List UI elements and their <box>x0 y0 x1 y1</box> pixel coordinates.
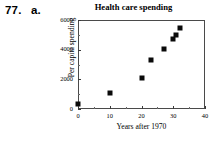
exercise-part-label: a. <box>31 4 41 16</box>
x-tick-mark <box>78 106 79 109</box>
plot-area <box>78 20 205 109</box>
data-point <box>174 32 179 37</box>
data-point <box>139 76 144 81</box>
x-tick-mark-minor <box>126 107 127 109</box>
y-tick-label: 0 <box>70 106 73 112</box>
x-tick-mark <box>205 106 206 109</box>
y-axis-title: Per capita spending <box>67 3 76 93</box>
x-tick-label: 30 <box>170 113 176 119</box>
x-tick-label: 40 <box>202 113 208 119</box>
x-tick-label: 20 <box>138 113 144 119</box>
x-tick-mark <box>110 106 111 109</box>
x-tick-mark <box>142 106 143 109</box>
data-point <box>177 26 182 31</box>
y-tick-mark <box>78 79 81 80</box>
y-tick-mark <box>78 50 81 51</box>
x-tick-label: 0 <box>76 113 79 119</box>
x-tick-mark-minor <box>189 107 190 109</box>
y-tick-mark-minor <box>78 65 80 66</box>
y-tick-mark-minor <box>78 94 80 95</box>
data-point <box>107 91 112 96</box>
x-axis-title: Years after 1970 <box>78 122 205 131</box>
y-tick-mark <box>78 109 81 110</box>
y-tick-mark <box>78 20 81 21</box>
x-tick-mark <box>173 106 174 109</box>
scatter-chart: Health care spending 0200040006000 01020… <box>48 0 219 142</box>
exercise-number: 77. <box>5 4 22 16</box>
data-point <box>149 58 154 63</box>
x-tick-mark-minor <box>157 107 158 109</box>
data-point <box>161 46 166 51</box>
x-tick-mark-minor <box>94 107 95 109</box>
x-tick-label: 10 <box>107 113 113 119</box>
figure-page: 77. a. Health care spending 020004000600… <box>0 0 219 142</box>
data-point <box>171 37 176 42</box>
y-tick-mark-minor <box>78 35 80 36</box>
